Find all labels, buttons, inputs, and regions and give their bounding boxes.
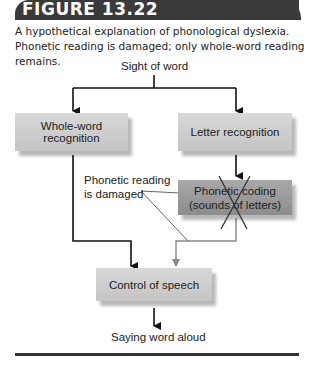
- bottom-rule: [15, 353, 299, 356]
- figure-label: FIGURE 13.22: [22, 0, 158, 19]
- output-arrow: [0, 0, 316, 371]
- output-label: Saying word aloud: [111, 331, 206, 343]
